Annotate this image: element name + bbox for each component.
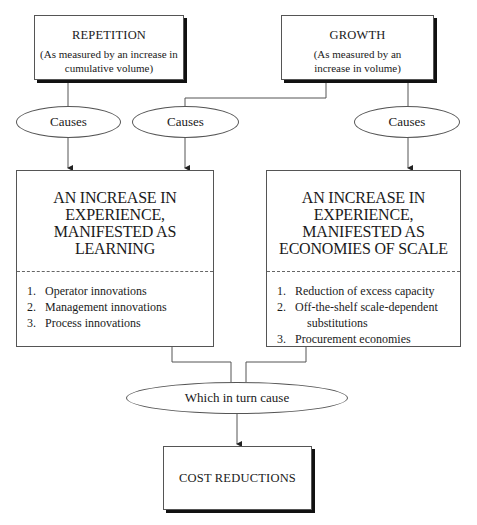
scale-heading-line: EXPERIENCE,	[267, 206, 460, 223]
scale-heading-line: MANIFESTED AS	[267, 223, 460, 240]
which-in-turn-cause-label: Which in turn cause	[185, 390, 289, 406]
causes-label: Causes	[50, 114, 87, 130]
growth-box: GROWTH (As measured by an increase in vo…	[281, 15, 434, 80]
item-number: 1.	[27, 283, 45, 299]
scale-heading-line: ECONOMIES OF SCALE	[267, 240, 460, 257]
learning-heading-line: EXPERIENCE,	[17, 206, 213, 223]
item-number: 3.	[277, 331, 295, 347]
learning-heading: AN INCREASE IN EXPERIENCE, MANIFESTED AS…	[17, 189, 213, 257]
causes-label: Causes	[167, 114, 204, 130]
cost-reductions-box: COST REDUCTIONS	[163, 446, 312, 510]
causes-ellipse-left: Causes	[16, 106, 121, 138]
repetition-subtitle-1: (As measured by an increase in	[35, 47, 183, 61]
repetition-title: REPETITION	[35, 28, 183, 43]
item-number: 2.	[27, 299, 45, 315]
repetition-box: REPETITION (As measured by an increase i…	[34, 15, 184, 80]
item-text: Operator innovations	[45, 283, 147, 299]
item-text: Management innovations	[45, 299, 167, 315]
item-text: Procurement economies	[295, 331, 411, 347]
item-text: Off-the-shelf scale-dependent	[295, 299, 438, 315]
list-item: 2.Management innovations	[27, 299, 167, 315]
learning-box: AN INCREASE IN EXPERIENCE, MANIFESTED AS…	[16, 170, 214, 347]
repetition-subtitle-2: cumulative volume)	[35, 61, 183, 75]
divider	[17, 271, 213, 272]
item-text: Reduction of excess capacity	[295, 283, 435, 299]
which-in-turn-cause-ellipse: Which in turn cause	[126, 382, 348, 414]
item-text: Process innovations	[45, 315, 141, 331]
scale-heading: AN INCREASE IN EXPERIENCE, MANIFESTED AS…	[267, 189, 460, 257]
list-item: 3.Process innovations	[27, 315, 167, 331]
scale-list: 1.Reduction of excess capacity 2.Off-the…	[277, 283, 438, 347]
cost-reductions-label: COST REDUCTIONS	[179, 471, 296, 486]
scale-heading-line: AN INCREASE IN	[267, 189, 460, 206]
learning-list: 1.Operator innovations 2.Management inno…	[27, 283, 167, 331]
causes-ellipse-middle: Causes	[132, 106, 239, 138]
causes-label: Causes	[389, 114, 426, 130]
learning-heading-line: LEARNING	[17, 240, 213, 257]
item-number: 1.	[277, 283, 295, 299]
list-item: 2.Off-the-shelf scale-dependent	[277, 299, 438, 315]
item-text: substitutions	[307, 315, 368, 331]
economies-of-scale-box: AN INCREASE IN EXPERIENCE, MANIFESTED AS…	[266, 170, 461, 347]
growth-subtitle-2: increase in volume)	[282, 61, 433, 75]
item-number: 3.	[27, 315, 45, 331]
causes-ellipse-right: Causes	[354, 106, 460, 138]
learning-heading-line: MANIFESTED AS	[17, 223, 213, 240]
growth-title: GROWTH	[282, 28, 433, 43]
learning-heading-line: AN INCREASE IN	[17, 189, 213, 206]
growth-subtitle-1: (As measured by an	[282, 47, 433, 61]
list-item: 3.Procurement economies	[277, 331, 438, 347]
item-number: 2.	[277, 299, 295, 315]
divider	[267, 271, 460, 272]
list-item: 1.Operator innovations	[27, 283, 167, 299]
list-item: 1.Reduction of excess capacity	[277, 283, 438, 299]
list-item-continuation: substitutions	[277, 315, 438, 331]
